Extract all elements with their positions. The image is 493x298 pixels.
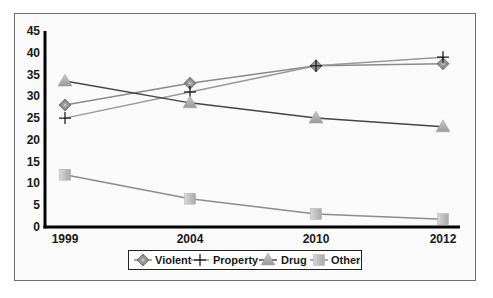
diamond-marker-center	[188, 81, 192, 85]
data-point-drug	[58, 74, 72, 86]
series-line-property	[65, 57, 443, 118]
data-point-property	[310, 60, 322, 72]
legend-label-property: Property	[213, 254, 259, 266]
x-tick-label: 2004	[177, 232, 204, 246]
series-lines	[65, 57, 443, 219]
line-chart: 0510152025303540451999200420102012 Viole…	[0, 0, 493, 298]
y-tick-label: 5	[33, 198, 40, 212]
y-tick-label: 25	[27, 111, 41, 125]
series-line-other	[65, 175, 443, 219]
series-line-drug	[65, 81, 443, 127]
data-point-property	[59, 112, 71, 124]
diamond-marker-center	[63, 103, 67, 107]
y-tick-label: 30	[27, 89, 41, 103]
data-point-other	[438, 214, 449, 225]
x-tick-label: 1999	[52, 232, 79, 246]
legend-label-other: Other	[331, 254, 361, 266]
series-line-violent	[65, 64, 443, 105]
y-tick-label: 40	[27, 46, 41, 60]
data-point-violent	[59, 99, 71, 111]
y-tick-label: 45	[27, 24, 41, 38]
series-markers	[58, 51, 450, 225]
legend-label-violent: Violent	[155, 254, 192, 266]
y-tick-label: 0	[33, 220, 40, 234]
data-point-other	[185, 193, 196, 204]
y-tick-label: 15	[27, 155, 41, 169]
x-tick-label: 2012	[430, 232, 457, 246]
y-tick-label: 35	[27, 68, 41, 82]
legend-label-drug: Drug	[281, 254, 307, 266]
x-tick-label: 2010	[303, 232, 330, 246]
data-point-other	[60, 169, 71, 180]
y-tick-label: 20	[27, 133, 41, 147]
data-point-other	[311, 208, 322, 219]
legend-marker-other	[314, 255, 325, 266]
diamond-marker-center	[141, 258, 145, 262]
axes: 0510152025303540451999200420102012	[27, 24, 460, 246]
y-tick-label: 10	[27, 176, 41, 190]
legend-item-other: Other	[310, 254, 361, 266]
legend-item-violent: Violent	[134, 254, 192, 266]
legend: ViolentPropertyDrugOther	[129, 251, 362, 270]
